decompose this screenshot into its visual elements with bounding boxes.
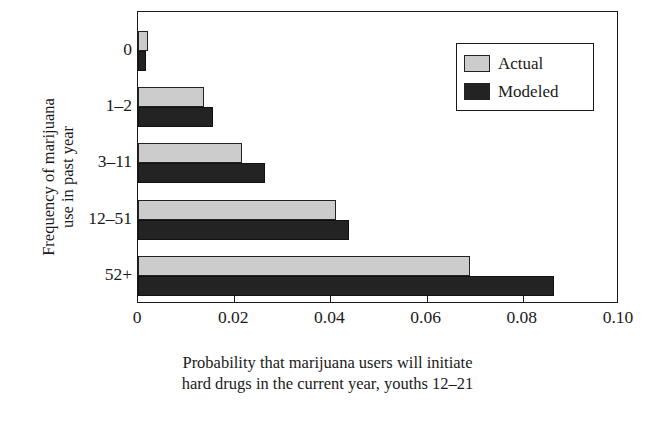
legend-swatch-actual-icon (464, 55, 490, 72)
bar-modeled-311 (138, 163, 265, 183)
legend-row-actual: Actual (464, 49, 586, 77)
y-tick-label-0: 0 (52, 41, 132, 59)
legend-row-modeled: Modeled (464, 77, 586, 105)
x-axis-tick-labels: 00.020.040.060.080.10 (0, 309, 655, 335)
legend-label-modeled: Modeled (498, 83, 558, 100)
x-tick-label-0.06: 0.06 (410, 309, 441, 327)
x-axis-title-line-1: Probability that marijuana users will in… (0, 352, 655, 373)
bar-actual-0 (138, 31, 148, 51)
y-tick-label-1251: 12–51 (52, 210, 132, 228)
x-tick-0.06 (427, 293, 428, 302)
x-tick-label-0.02: 0.02 (218, 309, 249, 327)
y-tick-label-12: 1–2 (52, 97, 132, 115)
x-tick-0.08 (523, 293, 524, 302)
bar-chart-figure: Frequency of marijuana use in past year … (0, 0, 655, 433)
bar-modeled-0 (138, 51, 146, 71)
x-tick-0.04 (330, 293, 331, 302)
x-tick-label-0.08: 0.08 (506, 309, 537, 327)
bar-actual-12 (138, 87, 204, 107)
legend-label-actual: Actual (498, 55, 543, 72)
x-axis-title-line-2: hard drugs in the current year, youths 1… (0, 373, 655, 394)
plot-area: ActualModeled (137, 11, 618, 303)
x-tick-label-0.04: 0.04 (314, 309, 345, 327)
bar-actual-52+ (138, 256, 470, 276)
bar-actual-311 (138, 143, 242, 163)
x-axis-title: Probability that marijuana users will in… (0, 352, 655, 395)
y-tick-label-52+: 52+ (52, 266, 132, 284)
x-tick-label-0: 0 (133, 309, 142, 327)
x-tick-0.02 (234, 293, 235, 302)
chart-legend: ActualModeled (456, 43, 594, 111)
bar-modeled-52+ (138, 276, 554, 296)
legend-swatch-modeled-icon (464, 83, 490, 100)
bar-actual-1251 (138, 200, 336, 220)
bar-modeled-1251 (138, 220, 349, 240)
x-tick-label-0.10: 0.10 (603, 309, 634, 327)
y-tick-label-311: 3–11 (52, 154, 132, 172)
bar-modeled-12 (138, 107, 213, 127)
